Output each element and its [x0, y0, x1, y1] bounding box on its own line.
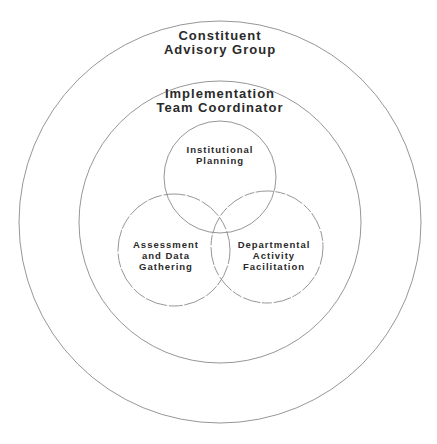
outer-ring-label-line-1: Constituent: [164, 29, 276, 43]
left-circle-label-line-1: Assessment: [133, 239, 199, 250]
top-venn-circle: [164, 121, 276, 233]
right-circle-label-line-1: Departmental: [238, 239, 311, 250]
top-circle-label-line-2: Planning: [187, 155, 254, 166]
middle-ring-circle: [79, 81, 361, 363]
right-circle-label-line-3: Facilitation: [238, 261, 311, 272]
left-circle-label: Assessment and Data Gathering: [133, 239, 199, 272]
middle-ring-label: Implementation Team Coordinator: [157, 87, 284, 115]
middle-ring-label-line-1: Implementation: [157, 87, 284, 101]
middle-ring-label-line-2: Team Coordinator: [157, 101, 284, 115]
left-circle-label-line-3: Gathering: [133, 261, 199, 272]
top-circle-label: Institutional Planning: [187, 144, 254, 166]
right-circle-label-line-2: Activity: [238, 250, 311, 261]
outer-ring-label: Constituent Advisory Group: [164, 29, 276, 57]
nested-circles-diagram: [0, 0, 437, 444]
right-circle-label: Departmental Activity Facilitation: [238, 239, 311, 272]
top-circle-label-line-1: Institutional: [187, 144, 254, 155]
left-circle-label-line-2: and Data: [133, 250, 199, 261]
outer-ring-label-line-2: Advisory Group: [164, 43, 276, 57]
